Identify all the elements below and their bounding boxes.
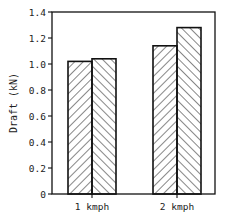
y-tick-label: 1.0 — [29, 59, 46, 70]
y-tick-label: 0.2 — [29, 163, 46, 174]
y-tick-label: 0.4 — [29, 137, 46, 148]
y-tick-label: 1.2 — [29, 33, 46, 44]
y-axis: 00.20.40.60.81.01.21.4 — [29, 7, 52, 200]
bar-chart: 00.20.40.60.81.01.21.4 1 kmph2 kmph Draf… — [0, 0, 233, 222]
y-tick-label: 0 — [40, 189, 46, 200]
x-tick-label: 1 kmph — [75, 201, 109, 212]
x-tick-label: 2 kmph — [160, 201, 194, 212]
y-tick-label: 1.4 — [29, 7, 46, 18]
bar — [92, 59, 116, 194]
bars-group — [68, 28, 201, 194]
x-axis: 1 kmph2 kmph — [75, 194, 194, 212]
bar — [153, 46, 177, 194]
y-axis-title: Draft (kN) — [8, 73, 19, 133]
bar — [68, 61, 92, 194]
bar — [177, 28, 201, 194]
y-tick-label: 0.6 — [29, 111, 46, 122]
y-tick-label: 0.8 — [29, 85, 46, 96]
